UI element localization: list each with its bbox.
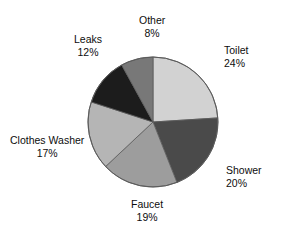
pie-slice-group bbox=[88, 57, 218, 187]
slice-label-clothes-washer-name: Clothes Washer bbox=[10, 134, 84, 147]
slice-label-shower-percent: 20% bbox=[226, 177, 262, 190]
slice-label-clothes-washer-percent: 17% bbox=[10, 147, 84, 160]
slice-label-leaks-name: Leaks bbox=[74, 33, 102, 46]
slice-label-faucet-percent: 19% bbox=[131, 211, 163, 224]
slice-label-toilet-percent: 24% bbox=[224, 57, 249, 70]
slice-label-leaks-percent: 12% bbox=[74, 46, 102, 59]
pie-chart-figure: WATER USE AT HOME Toilet 24% Shower 20% … bbox=[0, 0, 286, 237]
slice-label-shower-name: Shower bbox=[226, 164, 262, 177]
slice-label-other-name: Other bbox=[139, 14, 165, 27]
slice-label-toilet-name: Toilet bbox=[224, 44, 249, 57]
slice-label-leaks: Leaks 12% bbox=[74, 33, 102, 58]
slice-label-other-percent: 8% bbox=[139, 27, 165, 40]
pie-slice-toilet[interactable] bbox=[153, 57, 218, 122]
slice-label-shower: Shower 20% bbox=[226, 164, 262, 189]
slice-label-other: Other 8% bbox=[139, 14, 165, 39]
slice-label-clothes-washer: Clothes Washer 17% bbox=[10, 134, 84, 159]
slice-label-faucet: Faucet 19% bbox=[131, 198, 163, 223]
slice-label-faucet-name: Faucet bbox=[131, 198, 163, 211]
slice-label-toilet: Toilet 24% bbox=[224, 44, 249, 69]
